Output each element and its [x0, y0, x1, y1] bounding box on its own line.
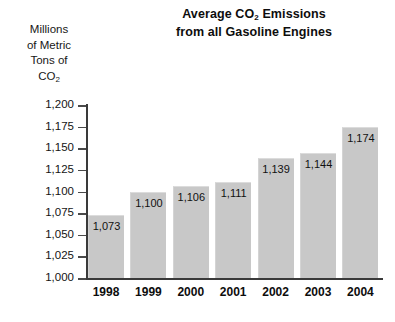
- y-tick-mark: [78, 127, 86, 129]
- bar: 1,106: [173, 186, 209, 278]
- bar-chart: Average CO2 Emissions from all Gasoline …: [0, 0, 395, 322]
- bar-value-label: 1,073: [89, 220, 124, 233]
- bar-value-label: 1,144: [301, 158, 336, 171]
- bar: 1,111: [215, 182, 251, 278]
- x-tick-label: 2000: [169, 285, 213, 300]
- y-tick-label: 1,125: [14, 162, 74, 177]
- plot-area: 1,2001,1751,1501,1251,1001,0751,0501,025…: [0, 0, 395, 322]
- y-tick-mark: [78, 148, 86, 150]
- x-axis-line: [86, 278, 383, 280]
- bar-value-label: 1,111: [216, 187, 251, 200]
- y-tick-label: 1,175: [14, 119, 74, 134]
- x-tick-label: 2004: [338, 285, 382, 300]
- y-tick-mark: [78, 278, 86, 280]
- bar: 1,100: [130, 192, 166, 279]
- y-tick-mark: [78, 170, 86, 172]
- y-tick-label: 1,025: [14, 248, 74, 263]
- y-tick-label: 1,075: [14, 205, 74, 220]
- x-tick-label: 2002: [254, 285, 298, 300]
- y-tick-label: 1,150: [14, 140, 74, 155]
- y-tick-mark: [78, 192, 86, 194]
- y-tick-label: 1,200: [14, 97, 74, 112]
- bar-value-label: 1,106: [174, 191, 209, 204]
- y-tick-mark: [78, 235, 86, 237]
- y-tick-label: 1,100: [14, 184, 74, 199]
- x-tick-label: 1999: [126, 285, 170, 300]
- x-tick-label: 2001: [211, 285, 255, 300]
- y-tick-label: 1,000: [14, 270, 74, 285]
- bar: 1,139: [258, 158, 294, 278]
- bar: 1,144: [300, 153, 336, 278]
- y-tick-mark: [78, 105, 86, 107]
- y-tick-mark: [78, 256, 86, 258]
- bar-value-label: 1,139: [259, 163, 294, 176]
- bar-value-label: 1,174: [343, 132, 378, 145]
- x-tick-label: 1998: [84, 285, 128, 300]
- y-tick-mark: [78, 213, 86, 215]
- bar-value-label: 1,100: [131, 197, 166, 210]
- y-tick-label: 1,050: [14, 227, 74, 242]
- bar: 1,073: [88, 215, 124, 278]
- x-tick-label: 2003: [296, 285, 340, 300]
- bar: 1,174: [342, 127, 378, 278]
